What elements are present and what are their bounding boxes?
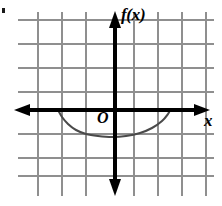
y-axis-arrow-down xyxy=(109,179,121,196)
graph-canvas xyxy=(0,0,222,206)
function-label: f(x) xyxy=(121,6,145,23)
corner-artifact-mark xyxy=(2,8,5,13)
origin-label: O xyxy=(97,110,109,126)
x-axis-label: x xyxy=(204,112,213,129)
function-graph-figure: f(x) O x xyxy=(0,0,222,206)
x-axis xyxy=(14,104,210,116)
x-axis-arrow-left xyxy=(14,104,30,116)
y-axis xyxy=(109,11,121,196)
